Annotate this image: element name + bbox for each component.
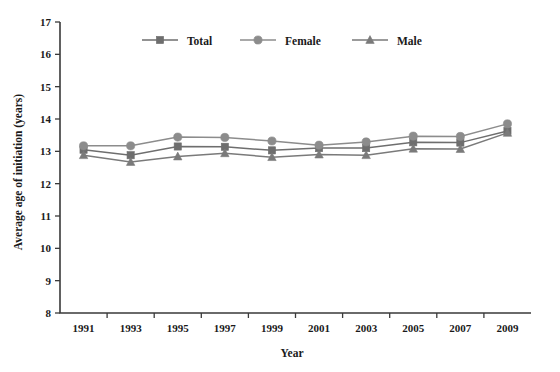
y-tick-label: 9 [46,275,52,287]
legend-label: Total [187,35,212,47]
circle-marker-icon [127,142,135,150]
x-tick-label: 2005 [402,322,425,334]
chart-figure: 891011121314151617 199119931995199719992… [0,0,560,372]
series-female [79,120,511,150]
y-axis-tick-labels: 891011121314151617 [40,16,52,319]
x-axis-tick-labels: 1991199319951997199920012003200520072009 [73,322,519,334]
square-marker-icon [174,143,181,150]
series-male [79,129,511,166]
x-tick-label: 2003 [355,322,378,334]
x-tick-label: 2001 [308,322,330,334]
axis-lines [60,22,531,313]
circle-marker-icon [315,141,323,149]
circle-marker-icon [456,132,464,140]
y-tick-label: 10 [40,242,52,254]
circle-marker-icon [174,133,182,141]
series-line [84,133,508,162]
legend-label: Female [285,35,321,47]
series-group [79,120,511,166]
y-tick-label: 8 [46,307,52,319]
circle-marker-icon [254,36,262,44]
x-tick-label: 2009 [496,322,519,334]
circle-marker-icon [268,137,276,145]
x-tick-label: 2007 [449,322,472,334]
legend-label: Male [397,35,422,47]
y-tick-label: 14 [40,113,52,125]
x-tick-label: 1991 [73,322,95,334]
y-tick-label: 12 [40,178,52,190]
circle-marker-icon [362,138,370,146]
y-tick-label: 11 [41,210,51,222]
x-tick-label: 1999 [261,322,284,334]
legend-item-total[interactable]: Total [142,35,212,47]
chart-legend: TotalFemaleMale [142,35,422,47]
x-tick-label: 1995 [167,322,190,334]
legend-item-male[interactable]: Male [352,35,422,47]
x-tick-label: 1997 [214,322,237,334]
line-chart: 891011121314151617 199119931995199719992… [0,0,560,372]
y-axis-title: Average age of initiation (years) [12,94,25,250]
y-tick-label: 15 [40,81,52,93]
x-tick-label: 1993 [120,322,143,334]
square-marker-icon [156,36,163,43]
circle-marker-icon [79,142,87,150]
y-tick-label: 17 [40,16,52,28]
circle-marker-icon [221,133,229,141]
y-tick-label: 13 [40,145,52,157]
legend-item-female[interactable]: Female [240,35,321,47]
axis-group [55,22,531,318]
circle-marker-icon [503,120,511,128]
y-tick-label: 16 [40,48,52,60]
circle-marker-icon [409,132,417,140]
x-axis-title: Year [281,347,304,359]
